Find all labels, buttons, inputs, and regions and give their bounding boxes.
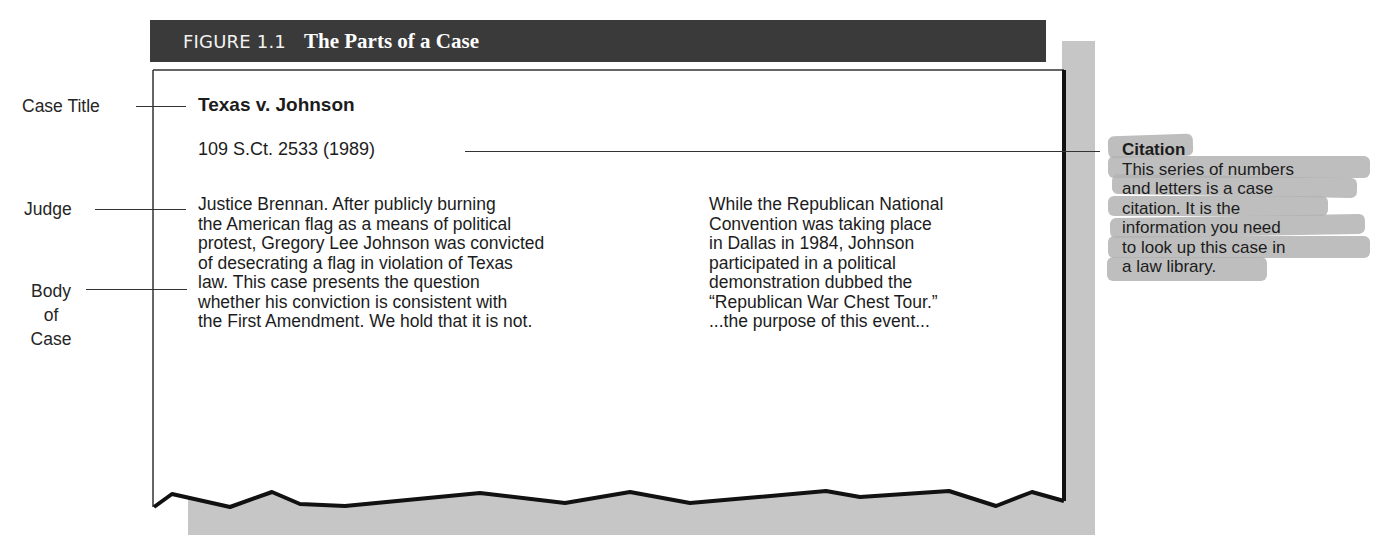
body-line: ...the purpose of this event... (709, 312, 943, 332)
body-line: protest, Gregory Lee Johnson was convict… (198, 234, 544, 254)
body-line: law. This case presents the question (198, 273, 544, 293)
body-line: the American flag as a means of politica… (198, 215, 544, 235)
label-case-title: Case Title (22, 96, 100, 117)
figure-label: FIGURE 1.1 (183, 31, 286, 52)
label-body-of-case: Body of Case (22, 279, 80, 351)
body-line: Justice Brennan. After publicly burning (198, 195, 544, 215)
callout-title: Citation (1122, 140, 1294, 160)
body-line: While the Republican National (709, 195, 943, 215)
callout-line: and letters is a case (1122, 179, 1294, 199)
body-line: participated in a political (709, 254, 943, 274)
body-column-right: While the Republican National Convention… (709, 195, 943, 332)
body-column-left: Justice Brennan. After publicly burning … (198, 195, 544, 332)
body-line: “Republican War Chest Tour.” (709, 293, 943, 313)
body-line: demonstration dubbed the (709, 273, 943, 293)
case-title: Texas v. Johnson (198, 95, 355, 115)
body-line: of desecrating a flag in violation of Te… (198, 254, 544, 274)
citation-callout: Citation This series of numbers and lett… (1122, 140, 1294, 277)
callout-line: a law library. (1122, 257, 1294, 277)
leader-line-citation (465, 151, 1100, 152)
figure-title-bar: FIGURE 1.1 The Parts of a Case (150, 20, 1046, 62)
label-body-line: of (22, 303, 80, 327)
callout-line: information you need (1122, 218, 1294, 238)
figure-title: The Parts of a Case (304, 29, 479, 54)
callout-line: citation. It is the (1122, 199, 1294, 219)
body-line: whether his conviction is consistent wit… (198, 293, 544, 313)
leader-line-judge (95, 209, 186, 210)
body-line: in Dallas in 1984, Johnson (709, 234, 943, 254)
callout-line: to look up this case in (1122, 238, 1294, 258)
case-citation: 109 S.Ct. 2533 (1989) (198, 140, 375, 160)
label-judge: Judge (24, 199, 72, 220)
leader-line-body (86, 289, 187, 290)
body-line: Convention was taking place (709, 215, 943, 235)
callout-line: This series of numbers (1122, 160, 1294, 180)
body-line: the First Amendment. We hold that it is … (198, 312, 544, 332)
label-body-line: Body (22, 279, 80, 303)
leader-line-case-title (136, 106, 186, 107)
label-body-line: Case (22, 327, 80, 351)
